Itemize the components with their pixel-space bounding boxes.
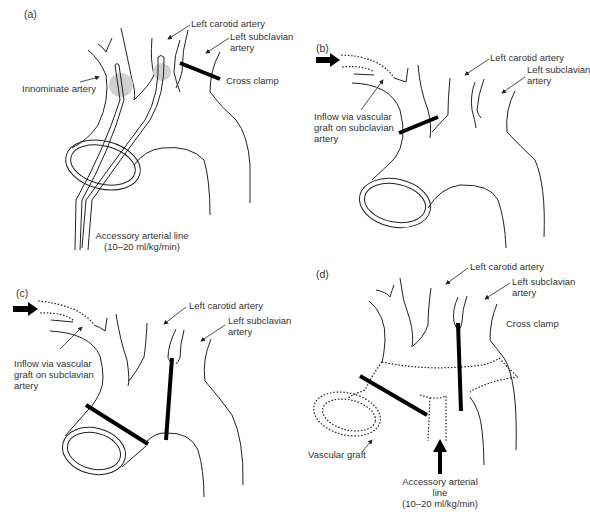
panel-c (13, 301, 243, 497)
cross-clamp-label-d: Cross clamp (506, 318, 559, 329)
cross-clamp-label-a: Cross clamp (226, 75, 279, 86)
vascular-graft-label: Vascular graft (308, 449, 366, 460)
left-subclavian-label-a: Left subclavian (230, 31, 293, 42)
left-subclavian-label-d-line2: artery (512, 287, 536, 298)
left-subclavian-label-b-line2: artery (527, 75, 551, 86)
accessory-line-label-d-2: line (380, 487, 500, 498)
innominate-artery-label: Innominate artery (22, 83, 96, 94)
perfusion-spot-carotid (153, 63, 171, 81)
left-carotid-label-d: Left carotid artery (470, 261, 544, 272)
accessory-line-rate-d: (10–20 ml/kg/min) (380, 498, 500, 509)
accessory-line-label-a: Accessory arterial line (82, 230, 202, 241)
panel-b (316, 53, 544, 248)
inflow-label-c-1: Inflow via vascular (14, 358, 92, 369)
accessory-line-rate-a: (10–20 ml/kg/min) (82, 241, 202, 252)
inflow-arrow-b (316, 53, 340, 67)
inflow-label-b-2: graft on subclavian (314, 122, 394, 133)
left-carotid-label-a: Left carotid artery (191, 18, 265, 29)
ascending-aorta-ring-b (355, 172, 435, 234)
inflow-label-c-3: artery (14, 380, 38, 391)
cross-clamp-b (399, 117, 438, 133)
cross-clamp-c-carotid (166, 358, 172, 440)
inflow-label-b-1: Inflow via vascular (314, 111, 392, 122)
left-carotid-label-b: Left carotid artery (490, 52, 564, 63)
left-subclavian-label-d: Left subclavian (512, 276, 575, 287)
inflow-label-b-3: artery (314, 133, 338, 144)
left-subclavian-label-c: Left subclavian (228, 315, 291, 326)
panel-d (309, 268, 518, 474)
cross-clamp-d-carotid (458, 323, 461, 411)
left-subclavian-label-c-line2: artery (228, 326, 252, 337)
panel-c-label: (c) (16, 287, 28, 299)
left-subclavian-label-b: Left subclavian (527, 64, 590, 75)
inflow-arrow-c (13, 302, 38, 316)
panel-b-label: (b) (316, 42, 329, 54)
left-subclavian-label-a-line2: artery (230, 42, 254, 53)
panel-a (60, 25, 250, 250)
left-carotid-label-c: Left carotid artery (189, 300, 263, 311)
accessory-line-label-d-1: Accessory arterial (380, 476, 500, 487)
panel-a-label: (a) (24, 8, 37, 20)
accessory-arterial-arrow-d (433, 439, 447, 474)
panel-d-label: (d) (316, 268, 329, 280)
inflow-label-c-2: graft on subclavian (14, 369, 94, 380)
